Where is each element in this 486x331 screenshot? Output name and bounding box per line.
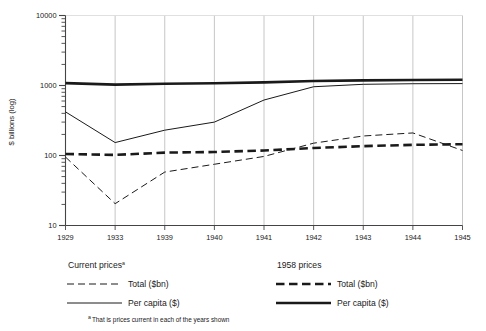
x-axis-tick-labels: 192919331939194019411942194319441945 — [57, 233, 470, 242]
y-axis-tick-label: 100 — [44, 151, 56, 160]
x-axis-tick-label: 1944 — [405, 233, 421, 242]
line-chart: 10000100010010 1929193319391940194119421… — [0, 0, 486, 331]
legend-heading: 1958 prices — [277, 260, 321, 270]
legend-item-label: Per capita ($) — [337, 298, 389, 308]
chart-container: 10000100010010 1929193319391940194119421… — [0, 0, 486, 331]
x-axis-tick-label: 1943 — [355, 233, 371, 242]
footnote-marker: a — [88, 314, 91, 320]
y-axis-tick-label: 10 — [48, 221, 56, 230]
x-axis-tick-label: 1942 — [305, 233, 321, 242]
x-axis-tick-label: 1941 — [256, 233, 272, 242]
legend-item-label: Total ($bn) — [128, 279, 169, 289]
x-axis-tick-label: 1939 — [157, 233, 173, 242]
y-axis-tick-label: 1000 — [40, 81, 56, 90]
legend-heading-sup: a — [122, 260, 125, 266]
x-axis-tick-label: 1945 — [454, 233, 470, 242]
legend-item-label: Total ($bn) — [337, 279, 378, 289]
y-axis-tick-label: 10000 — [36, 11, 57, 20]
x-axis-tick-label: 1940 — [206, 233, 222, 242]
x-axis-tick-label: 1933 — [107, 233, 123, 242]
y-axis-title: $ billions (log) — [7, 98, 16, 145]
footnote-body: That is prices current in each of the ye… — [92, 316, 230, 324]
legend-item-label: Per capita ($) — [128, 298, 180, 308]
x-axis-tick-label: 1929 — [57, 233, 73, 242]
legend-heading: Current pricesa — [68, 260, 125, 270]
footnote: aThat is prices current in each of the y… — [88, 314, 230, 324]
footnote-text: aThat is prices current in each of the y… — [88, 314, 230, 324]
